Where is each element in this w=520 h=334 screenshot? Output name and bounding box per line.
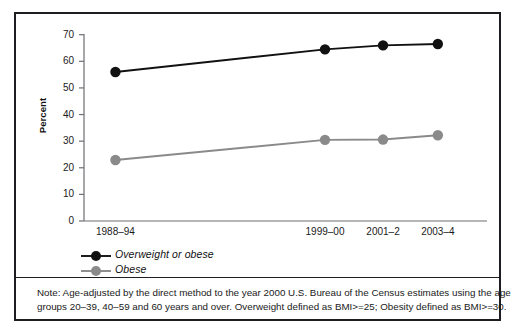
x-tick-label-2001-2: 2001–2	[355, 227, 411, 237]
series-overweight-line	[115, 44, 437, 72]
y-tick-label-20: 20	[48, 163, 74, 173]
data-point-overweight-1999-00	[320, 44, 330, 54]
data-point-overweight-2003-4	[433, 39, 443, 49]
y-tick-label-60: 60	[48, 56, 74, 66]
x-tick-label-1988-94: 1988–94	[87, 227, 143, 237]
series-obese-line	[115, 135, 437, 160]
y-tick-label-30: 30	[48, 136, 74, 146]
y-tick-label-40: 40	[48, 110, 74, 120]
legend-swatch-overweight-icon	[80, 248, 112, 260]
chart-note-line-2: groups 20–39, 40–59 and 60 years and ove…	[37, 300, 487, 314]
figure-frame: 70 60 50 40 30 20 10 0 Percent 1988–94 1…	[14, 12, 501, 321]
chart-legend: Overweight or obese Obese	[80, 246, 380, 276]
figure-root: 70 60 50 40 30 20 10 0 Percent 1988–94 1…	[0, 0, 520, 334]
data-point-obese-1988-94	[110, 155, 120, 165]
legend-label-overweight-or-obese: Overweight or obese	[115, 248, 214, 260]
data-point-overweight-1988-94	[110, 67, 120, 77]
series-obese	[110, 130, 443, 165]
y-tick-label-10: 10	[48, 189, 74, 199]
note-divider	[16, 277, 501, 278]
x-tick-label-1999-00: 1999–00	[297, 227, 353, 237]
y-tick-label-50: 50	[48, 83, 74, 93]
chart-plot-area: 70 60 50 40 30 20 10 0 Percent 1988–94 1…	[16, 14, 503, 323]
data-point-obese-1999-00	[320, 135, 330, 145]
y-axis-title: Percent	[37, 98, 48, 134]
legend-item-obese[interactable]: Obese	[80, 261, 380, 276]
legend-label-obese: Obese	[115, 263, 146, 275]
data-point-obese-2001-2	[378, 134, 388, 144]
legend-item-overweight-or-obese[interactable]: Overweight or obese	[80, 246, 380, 261]
series-overweight-or-obese	[110, 39, 443, 77]
data-point-overweight-2001-2	[378, 40, 388, 50]
y-tick-label-70: 70	[48, 30, 74, 40]
legend-swatch-obese-icon	[80, 263, 112, 275]
chart-note: Note: Age-adjusted by the direct method …	[37, 286, 487, 314]
data-point-obese-2003-4	[433, 130, 443, 140]
chart-note-line-1: Note: Age-adjusted by the direct method …	[37, 286, 487, 300]
y-tick-marks	[79, 35, 84, 221]
x-tick-label-2003-4: 2003–4	[410, 227, 466, 237]
y-tick-label-0: 0	[48, 216, 74, 226]
